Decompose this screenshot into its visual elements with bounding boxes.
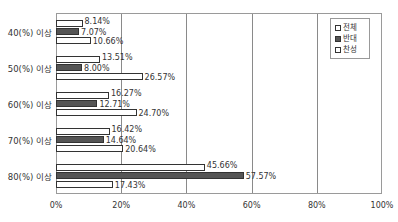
bar-0 [56, 92, 109, 99]
bar-2 [56, 37, 91, 44]
bar-1 [56, 136, 104, 143]
x-tick-label: 60% [243, 201, 261, 210]
x-tick-label: 20% [112, 201, 130, 210]
bar-2 [56, 181, 113, 188]
value-label: 24.70% [139, 110, 170, 118]
legend-swatch-icon [335, 47, 341, 53]
legend-swatch-icon [335, 25, 341, 31]
x-tick-label: 80% [308, 201, 326, 210]
bar-2 [56, 109, 137, 116]
bar-1 [56, 172, 244, 179]
value-label: 16.42% [112, 126, 143, 134]
gridline [317, 14, 318, 193]
x-tick-label: 40% [178, 201, 196, 210]
value-label: 13.51% [102, 54, 133, 62]
value-label: 10.66% [93, 38, 124, 46]
category-label: 40(%) 이상 [8, 26, 52, 38]
legend-item: 반대 [335, 33, 365, 44]
legend-label: 전체 [343, 22, 357, 33]
bar-0 [56, 128, 110, 135]
value-label: 57.57% [246, 173, 277, 181]
value-label: 45.66% [207, 162, 238, 170]
bar-1 [56, 64, 82, 71]
legend-label: 반대 [343, 33, 357, 44]
bar-2 [56, 73, 143, 80]
bar-chart: 8.14%7.07%10.66%13.51%8.00%26.57%16.27%1… [0, 0, 398, 222]
category-label: 50(%) 이상 [8, 62, 52, 74]
x-tick-label: 100% [371, 201, 394, 210]
gridline [252, 14, 253, 193]
bar-1 [56, 100, 97, 107]
category-label: 70(%) 이상 [8, 134, 52, 146]
legend-item: 찬성 [335, 44, 365, 55]
value-label: 20.64% [125, 146, 156, 154]
x-tick-label: 0% [50, 201, 63, 210]
bar-2 [56, 145, 123, 152]
legend: 전체반대찬성 [330, 18, 370, 59]
value-label: 17.43% [115, 182, 146, 190]
legend-swatch-icon [335, 36, 341, 42]
value-label: 8.14% [85, 18, 110, 26]
legend-label: 찬성 [343, 44, 357, 55]
category-label: 60(%) 이상 [8, 98, 52, 110]
legend-item: 전체 [335, 22, 365, 33]
category-label: 80(%) 이상 [8, 170, 52, 182]
bar-0 [56, 20, 83, 27]
bar-0 [56, 56, 100, 63]
bar-1 [56, 28, 79, 35]
bar-0 [56, 164, 205, 171]
value-label: 16.27% [111, 90, 142, 98]
value-label: 26.57% [145, 74, 176, 82]
